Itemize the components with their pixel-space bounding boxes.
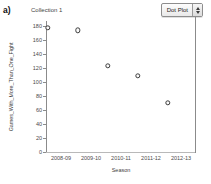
x-tick-label: 2010-11: [111, 155, 131, 161]
y-tick: [43, 82, 46, 83]
y-tick: [43, 138, 46, 139]
stepper-down-icon[interactable]: [196, 11, 200, 14]
data-point[interactable]: [45, 25, 50, 30]
y-tick-label: 100: [33, 79, 42, 85]
y-tick-label: 0: [39, 149, 42, 155]
data-point[interactable]: [105, 63, 110, 68]
x-tick-label: 2011-12: [141, 155, 161, 161]
data-point[interactable]: [165, 100, 170, 105]
y-tick-label: 180: [33, 23, 42, 29]
y-axis-title: Games_With_More_Than_One_Fight: [8, 21, 14, 153]
chart-panel: a) Collection 1 Dot Plot Games_With_More…: [0, 0, 211, 184]
y-tick: [43, 110, 46, 111]
y-tick-label: 20: [36, 135, 42, 141]
plot-type-stepper[interactable]: [192, 4, 202, 16]
x-tick-label: 2009-10: [81, 155, 101, 161]
y-tick-label: 160: [33, 37, 42, 43]
y-tick-label: 60: [36, 107, 42, 113]
x-tick-label: 2008-09: [51, 155, 71, 161]
x-tick-label: 2012-13: [171, 155, 191, 161]
plot-right-border: [195, 17, 196, 153]
y-tick-label: 40: [36, 121, 42, 127]
y-tick: [43, 68, 46, 69]
x-axis-title: Season: [46, 167, 196, 173]
y-tick: [43, 40, 46, 41]
y-tick-label: 80: [36, 93, 42, 99]
y-axis-line: [46, 21, 47, 153]
plot-area: 020406080100120140160180 2008-092009-102…: [46, 21, 196, 153]
y-tick: [43, 152, 46, 153]
data-point[interactable]: [75, 27, 80, 32]
plot-type-value: Dot Plot: [162, 4, 192, 16]
y-tick: [43, 124, 46, 125]
plot-type-dropdown[interactable]: Dot Plot: [161, 3, 203, 17]
data-point[interactable]: [135, 73, 140, 78]
y-tick-label: 120: [33, 65, 42, 71]
x-axis-line: [46, 152, 196, 153]
y-tick-label: 140: [33, 51, 42, 57]
collection-title: Collection 1: [31, 7, 62, 13]
panel-label: a): [3, 5, 11, 15]
stepper-up-icon[interactable]: [196, 7, 200, 10]
y-tick: [43, 96, 46, 97]
y-tick: [43, 54, 46, 55]
